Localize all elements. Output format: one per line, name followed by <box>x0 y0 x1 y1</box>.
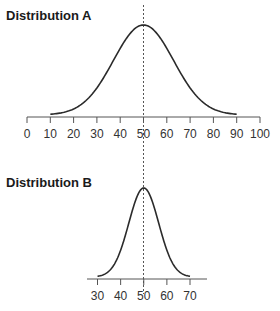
x-tick-label: 60 <box>160 127 174 141</box>
x-tick-label: 10 <box>44 127 58 141</box>
x-tick-label: 100 <box>250 127 270 141</box>
distribution-b-plot: 3040506070 <box>87 188 207 303</box>
x-tick-label: 80 <box>207 127 221 141</box>
x-tick-label: 20 <box>67 127 81 141</box>
x-tick-label: 40 <box>114 127 128 141</box>
x-tick-label: 50 <box>137 127 151 141</box>
x-tick-label: 40 <box>114 289 128 303</box>
distributions-chart: 0102030405060708090100 3040506070 <box>0 0 280 311</box>
x-tick-label: 70 <box>183 127 197 141</box>
x-tick-label: 70 <box>183 289 197 303</box>
x-tick-label: 60 <box>160 289 174 303</box>
x-tick-label: 50 <box>137 289 151 303</box>
x-tick-label: 30 <box>91 289 105 303</box>
x-tick-label: 30 <box>90 127 104 141</box>
x-tick-label: 0 <box>24 127 31 141</box>
x-tick-label: 90 <box>230 127 244 141</box>
distribution-a-plot: 0102030405060708090100 <box>24 25 271 141</box>
